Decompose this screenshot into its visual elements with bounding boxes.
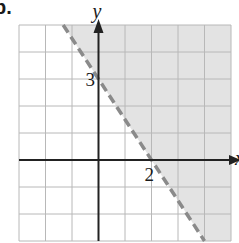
- x-intercept-label: 2: [145, 164, 155, 185]
- y-axis-label: y: [91, 0, 102, 23]
- inequality-graph: x y 3 2: [0, 0, 239, 243]
- y-intercept-label: 3: [86, 69, 96, 90]
- x-axis-label: x: [234, 147, 239, 169]
